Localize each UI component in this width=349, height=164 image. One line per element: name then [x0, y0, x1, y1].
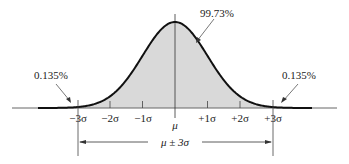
tick-label-plus3: +3σ: [264, 112, 282, 124]
tick-label-plus2: +2σ: [231, 112, 249, 124]
left-tail-arrowhead: [66, 97, 71, 103]
tick-label-minus2: −2σ: [101, 112, 119, 124]
center-area-pointer: [197, 19, 214, 41]
mean-label: μ: [171, 119, 178, 131]
left-tail-label: 0.135%: [34, 69, 68, 81]
arrowhead-left: [79, 140, 86, 144]
right-tail-label: 0.135%: [282, 69, 316, 81]
center-area-label: 99.73%: [200, 7, 234, 19]
arrowhead-right: [265, 140, 272, 144]
normal-distribution-diagram: −3σ −2σ −1σ +1σ +2σ +3σ μ μ ± 3σ 99.73% …: [0, 0, 349, 164]
range-label: μ ± 3σ: [160, 136, 190, 148]
tick-label-minus3: −3σ: [69, 112, 87, 124]
tick-label-minus1: −1σ: [134, 112, 152, 124]
tick-label-plus1: +1σ: [198, 112, 216, 124]
